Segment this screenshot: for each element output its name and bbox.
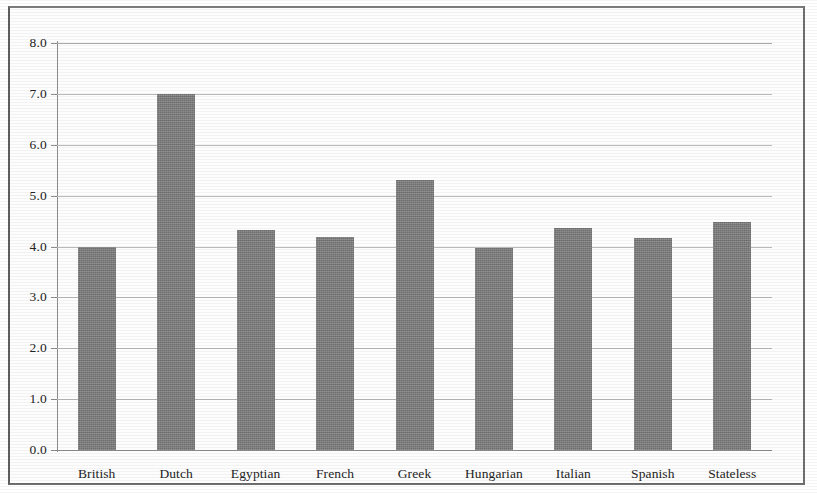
bar-british [78, 247, 116, 451]
x-axis-label-hungarian: Hungarian [465, 466, 523, 482]
bar-spanish [634, 238, 672, 450]
x-axis-label-stateless: Stateless [708, 466, 756, 482]
y-tick-mark [51, 145, 57, 146]
bar-dutch [157, 94, 195, 450]
y-tick-mark [51, 348, 57, 349]
y-axis-tick-label: 1.0 [30, 391, 47, 407]
y-axis-tick-label: 2.0 [30, 340, 47, 356]
y-tick-mark [51, 43, 57, 44]
x-axis-label-spanish: Spanish [631, 466, 674, 482]
y-axis-tick-label: 4.0 [30, 239, 47, 255]
gridline-0.0: 0.0 [57, 450, 772, 451]
bar-hungarian [475, 248, 513, 450]
gridline-8.0: 8.0 [57, 43, 772, 44]
y-axis-tick-label: 5.0 [30, 188, 47, 204]
bar-stateless [713, 222, 751, 450]
x-axis-label-italian: Italian [556, 466, 591, 482]
bar-greek [396, 180, 434, 450]
x-axis-label-french: French [316, 466, 354, 482]
y-tick-mark [51, 399, 57, 400]
y-axis-tick-label: 7.0 [30, 86, 47, 102]
bar-egyptian [237, 230, 275, 450]
y-axis-tick-label: 3.0 [30, 289, 47, 305]
y-axis-tick-label: 6.0 [30, 137, 47, 153]
bar-italian [554, 228, 592, 450]
x-axis-label-dutch: Dutch [159, 466, 193, 482]
bar-french [316, 237, 354, 450]
y-tick-mark [51, 247, 57, 248]
bar-chart-figure: 0.01.02.03.04.05.06.07.08.0 BritishDutch… [0, 0, 817, 493]
y-tick-mark [51, 450, 57, 451]
y-axis-tick-label: 8.0 [30, 35, 47, 51]
x-axis-label-greek: Greek [398, 466, 431, 482]
x-axis-label-british: British [78, 466, 115, 482]
y-tick-mark [51, 297, 57, 298]
y-tick-mark [51, 196, 57, 197]
y-axis-tick-label: 0.0 [30, 442, 47, 458]
plot-area: 0.01.02.03.04.05.06.07.08.0 [57, 43, 772, 450]
y-tick-mark [51, 94, 57, 95]
x-axis-label-egyptian: Egyptian [231, 466, 281, 482]
